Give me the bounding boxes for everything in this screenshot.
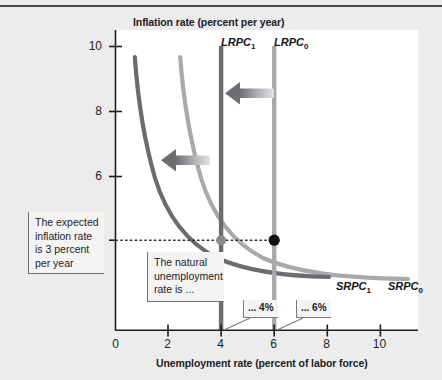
- natural-unemployment-callout: The natural unemployment rate is ...: [147, 252, 224, 302]
- lrpc1-label-text: LRPC: [221, 36, 251, 48]
- lrpc0-label-subscript: 0: [304, 42, 308, 51]
- srpc1-label-subscript: 1: [367, 286, 371, 295]
- y-tick-label-10: 10: [76, 39, 102, 53]
- y-tick-label-6: 6: [76, 169, 102, 183]
- x-tick-label-10: 10: [365, 337, 394, 351]
- x-tick-label-0: 0: [101, 337, 130, 351]
- equilibrium-point-original: [269, 235, 280, 246]
- phillips-curve-figure: Inflation rate (percent per year) Unempl…: [0, 0, 442, 380]
- x-tick-label-2: 2: [153, 337, 182, 351]
- srpc-shift-arrow: [161, 149, 210, 172]
- srpc0-label-subscript: 0: [419, 286, 423, 295]
- x-tick-label-6: 6: [259, 337, 288, 351]
- lrpc-shift-arrow: [225, 82, 274, 105]
- pct-callout-6: ... 6%: [296, 300, 331, 318]
- lrpc1-label: LRPC1: [221, 36, 255, 51]
- x-tick-label-4: 4: [206, 337, 235, 351]
- equilibrium-point-new: [216, 235, 226, 245]
- pct-callout-leader-lines: [224, 318, 303, 330]
- srpc0-label-text: SRPC: [388, 280, 419, 292]
- lrpc0-label-text: LRPC: [274, 36, 304, 48]
- y-tick-label-8: 8: [76, 104, 102, 118]
- lrpc0-label: LRPC0: [274, 36, 308, 51]
- srpc1-label: SRPC1: [336, 280, 371, 295]
- expected-inflation-callout: The expected inflation rate is 3 percent…: [28, 212, 104, 274]
- chart-svg: [0, 0, 442, 380]
- x-axis-title: Unemployment rate (percent of labor forc…: [156, 357, 368, 369]
- srpc0-curve: [180, 57, 408, 279]
- lrpc1-label-subscript: 1: [251, 42, 255, 51]
- pct-callout-4: ... 4%: [243, 300, 278, 318]
- srpc0-label: SRPC0: [388, 280, 423, 295]
- srpc1-label-text: SRPC: [336, 280, 367, 292]
- x-tick-label-8: 8: [312, 337, 341, 351]
- y-axis-title: Inflation rate (percent per year): [133, 16, 284, 28]
